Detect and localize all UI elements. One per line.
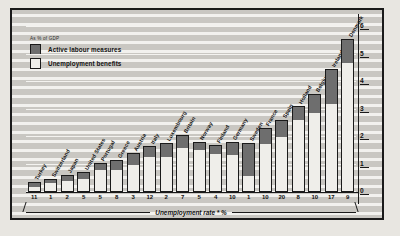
stacked-bar[interactable]: Germany — [226, 142, 239, 192]
bar-segment-active-labour-measures — [309, 95, 320, 113]
stacked-bar[interactable]: Britain — [176, 135, 189, 192]
stacked-bar[interactable]: Denmark — [341, 39, 354, 192]
stacked-bar[interactable]: Switzerland — [44, 179, 57, 192]
x-axis-tick-label: 8 — [290, 194, 307, 206]
stacked-bar[interactable]: Belgium — [308, 94, 321, 192]
bar-segment-unemployment-benefits — [128, 165, 139, 191]
bar-segment-active-labour-measures — [210, 146, 221, 154]
bar-column[interactable]: Finland — [208, 16, 225, 192]
bar-column[interactable]: Sweden — [241, 16, 258, 192]
x-axis-tick-label: 10 — [257, 194, 274, 206]
stacked-bar[interactable]: Sweden — [242, 143, 255, 192]
bar-segment-active-labour-measures — [128, 154, 139, 165]
x-axis-baseline — [26, 192, 358, 193]
x-axis-tick-label: 7 — [175, 194, 192, 206]
bar-column[interactable]: Belgium — [307, 16, 324, 192]
x-axis-tick-label: 5 — [92, 194, 109, 206]
bar-column[interactable]: Portugal — [92, 16, 109, 192]
bar-segment-unemployment-benefits — [227, 155, 238, 191]
x-axis-tick-label: 1 — [43, 194, 60, 206]
y-axis-tick-label: 1 — [360, 160, 382, 168]
stacked-bar[interactable]: Portugal — [94, 163, 107, 193]
bar-segment-active-labour-measures — [177, 136, 188, 148]
bar-group: TurkeySwitzerlandJapanUnited StatesPortu… — [26, 16, 356, 192]
x-axis-tick-label: 5 — [76, 194, 93, 206]
stacked-bar[interactable]: Spain — [275, 120, 288, 192]
bar-column[interactable]: Luxembourg — [158, 16, 175, 192]
bar-segment-unemployment-benefits — [177, 148, 188, 191]
bar-segment-active-labour-measures — [243, 144, 254, 176]
bar-segment-unemployment-benefits — [29, 187, 40, 191]
stacked-bar[interactable]: Finland — [209, 145, 222, 192]
x-axis-tick-label: 8 — [109, 194, 126, 206]
bar-column[interactable]: Denmark — [340, 16, 357, 192]
x-axis-ticks: 111255831227541011020810179 — [26, 194, 356, 206]
bar-segment-unemployment-benefits — [95, 170, 106, 191]
stacked-bar[interactable]: Norway — [193, 142, 206, 192]
bar-segment-active-labour-measures — [111, 161, 122, 171]
stacked-bar[interactable]: Italy — [143, 146, 156, 192]
x-axis-title: Unemployment rate * % — [150, 209, 231, 216]
bar-column[interactable]: Austria — [125, 16, 142, 192]
bar-segment-unemployment-benefits — [62, 181, 73, 191]
stacked-bar[interactable]: United States — [77, 172, 90, 192]
y-axis-tick-label: 4 — [360, 77, 382, 85]
bar-segment-active-labour-measures — [293, 107, 304, 119]
stacked-bar[interactable]: France — [259, 128, 272, 192]
x-axis-tick-label: 1 — [241, 194, 258, 206]
bar-segment-active-labour-measures — [276, 121, 287, 138]
bar-segment-active-labour-measures — [144, 147, 155, 157]
bar-column[interactable]: Britain — [175, 16, 192, 192]
plot-area: TurkeySwitzerlandJapanUnited StatesPortu… — [26, 16, 356, 192]
bar-segment-active-labour-measures — [161, 144, 172, 156]
bar-column[interactable]: Japan — [59, 16, 76, 192]
stacked-bar[interactable]: Greece — [110, 160, 123, 192]
bar-segment-unemployment-benefits — [111, 170, 122, 191]
x-axis-tick-label: 10 — [224, 194, 241, 206]
x-axis-tick-label: 17 — [323, 194, 340, 206]
bar-column[interactable]: Switzerland — [43, 16, 60, 192]
bar-column[interactable]: Holland — [290, 16, 307, 192]
bar-column[interactable]: Spain — [274, 16, 291, 192]
y-axis-tick-label: 6 — [360, 22, 382, 30]
bar-segment-active-labour-measures — [194, 143, 205, 150]
chart-frame: As % of GDP Active labour measures Unemp… — [10, 8, 384, 220]
stacked-bar[interactable]: Holland — [292, 106, 305, 192]
x-axis-tick-label: 2 — [158, 194, 175, 206]
bar-column[interactable]: Turkey — [26, 16, 43, 192]
stacked-bar[interactable]: Austria — [127, 153, 140, 192]
y-axis-ticks: 0123456 — [360, 16, 384, 192]
bar-segment-unemployment-benefits — [161, 157, 172, 191]
bar-segment-unemployment-benefits — [326, 104, 337, 191]
bar-segment-unemployment-benefits — [243, 176, 254, 191]
bar-segment-unemployment-benefits — [45, 183, 56, 191]
x-axis-tick-label: 2 — [59, 194, 76, 206]
stacked-bar[interactable]: Luxembourg — [160, 143, 173, 192]
y-axis-line — [358, 14, 359, 204]
stacked-bar[interactable]: Japan — [61, 175, 74, 192]
bar-column[interactable]: Germany — [224, 16, 241, 192]
x-axis-tick-label: 20 — [274, 194, 291, 206]
bar-column[interactable]: Greece — [109, 16, 126, 192]
bar-segment-active-labour-measures — [95, 164, 106, 171]
x-axis-tick-label: 4 — [208, 194, 225, 206]
bar-column[interactable]: United States — [76, 16, 93, 192]
x-axis-tick-label: 12 — [142, 194, 159, 206]
bar-column[interactable]: Ireland — [323, 16, 340, 192]
bar-segment-unemployment-benefits — [309, 113, 320, 191]
stacked-bar[interactable]: Ireland — [325, 69, 338, 192]
bar-segment-unemployment-benefits — [342, 63, 353, 191]
bar-column[interactable]: France — [257, 16, 274, 192]
bar-column[interactable]: Italy — [142, 16, 159, 192]
bar-column[interactable]: Norway — [191, 16, 208, 192]
y-axis-tick-label: 5 — [360, 50, 382, 58]
bar-segment-active-labour-measures — [227, 143, 238, 155]
bar-segment-unemployment-benefits — [293, 120, 304, 192]
x-axis-title-row: Unemployment rate * % — [26, 206, 356, 218]
x-axis-tick-label: 3 — [125, 194, 142, 206]
x-axis-tick-label: 5 — [191, 194, 208, 206]
y-axis-tick-label: 0 — [360, 187, 382, 195]
stacked-bar[interactable]: Turkey — [28, 182, 41, 192]
axis-rule-left — [26, 212, 150, 213]
bar-segment-unemployment-benefits — [78, 179, 89, 191]
